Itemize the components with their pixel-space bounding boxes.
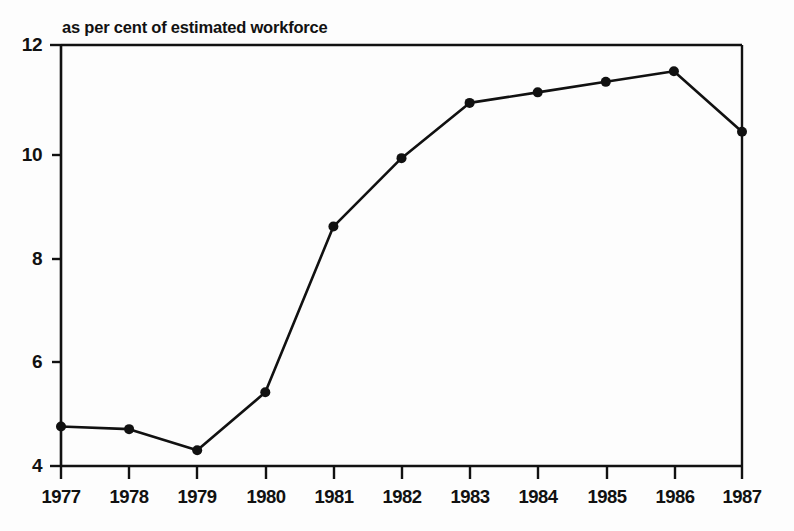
- data-point-markers: [56, 66, 747, 455]
- x-tick-label-1978: 1978: [94, 486, 164, 508]
- data-point-1983: [465, 98, 475, 108]
- data-point-1984: [533, 87, 543, 97]
- y-axis-ticks: [50, 45, 61, 466]
- x-tick-label-1987: 1987: [707, 486, 777, 508]
- y-tick-label-10: 10: [2, 144, 42, 166]
- x-tick-label-1984: 1984: [503, 486, 573, 508]
- x-tick-label-1981: 1981: [299, 486, 369, 508]
- data-point-1977: [56, 422, 66, 432]
- y-tick-label-8: 8: [2, 248, 42, 270]
- data-point-1980: [260, 387, 270, 397]
- data-series-line: [61, 71, 742, 450]
- data-point-1979: [192, 445, 202, 455]
- data-point-1987: [737, 127, 747, 137]
- data-point-1986: [669, 66, 679, 76]
- x-tick-label-1985: 1985: [572, 486, 642, 508]
- y-tick-label-12: 12: [2, 34, 42, 56]
- plot-frame: [61, 45, 742, 466]
- line-chart-plot: [0, 0, 794, 531]
- x-tick-label-1983: 1983: [435, 486, 505, 508]
- data-point-1985: [601, 77, 611, 87]
- x-axis-ticks: [61, 466, 742, 479]
- y-tick-label-4: 4: [2, 455, 42, 477]
- x-tick-label-1977: 1977: [26, 486, 96, 508]
- data-point-1981: [328, 222, 338, 232]
- x-tick-label-1980: 1980: [231, 486, 301, 508]
- x-tick-label-1982: 1982: [367, 486, 437, 508]
- x-tick-label-1979: 1979: [162, 486, 232, 508]
- data-point-1978: [124, 424, 134, 434]
- x-tick-label-1986: 1986: [640, 486, 710, 508]
- data-point-1982: [397, 153, 407, 163]
- chart-figure: as per cent of estimated workforce: [0, 0, 794, 531]
- y-tick-label-6: 6: [2, 351, 42, 373]
